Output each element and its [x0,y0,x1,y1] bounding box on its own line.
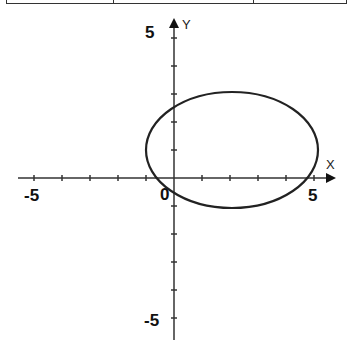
coordinate-plane [0,0,348,360]
y-min-label: -5 [144,312,159,329]
x-min-label: -5 [24,187,39,204]
y-max-label: 5 [145,24,154,41]
origin-label: 0 [160,186,169,203]
x-axis-label: X [326,158,335,171]
y-axis-label: Y [182,18,191,31]
x-axis-arrow-icon [326,173,336,183]
y-axis-arrow-icon [169,18,179,28]
x-max-label: 5 [308,187,317,204]
